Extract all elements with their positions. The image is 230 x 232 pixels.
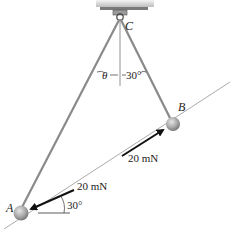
label-a: A	[5, 201, 14, 215]
label-c: C	[125, 19, 134, 33]
label-force-a: 20 mN	[77, 180, 107, 192]
ceiling-plate	[100, 7, 148, 10]
ceiling-shading	[96, 0, 154, 7]
ball-a	[14, 206, 29, 221]
label-theta: θ	[102, 69, 108, 81]
label-force-b: 20 mN	[128, 152, 158, 164]
label-angle-30-force: 30°	[67, 199, 82, 211]
diagram-canvas: C B A θ 30° 20 mN 20 mN 30°	[0, 0, 230, 232]
label-angle-30-rod: 30°	[126, 69, 141, 81]
angle-arc-a	[60, 195, 65, 213]
ceiling-support	[96, 0, 154, 20]
ball-b	[166, 117, 180, 131]
label-b: B	[178, 100, 186, 114]
